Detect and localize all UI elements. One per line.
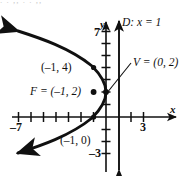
x-axis-label: x [170,104,176,115]
point-lower-dot [91,114,96,119]
vertex-dot [103,89,109,95]
x-tick-label-3: 3 [140,121,146,133]
point-upper-dot [91,65,96,70]
directrix-label: D: x = 1 [122,17,161,29]
y-tick-label-7: 7 [94,26,100,38]
point-upper-label: (–1, 4) [41,62,72,74]
focus-dot [91,89,97,95]
x-tick-label-neg7: –7 [10,121,22,133]
point-lower-label: (–1, 0) [60,135,91,147]
y-tick-label-neg3: –3 [89,147,101,159]
y-axis-label: y [100,19,105,30]
focus-label-text: F = (–1, 2) [30,85,81,97]
vertex-label-text: V = (0, 2) [133,56,178,68]
focus-label: F = (–1, 2) [30,86,81,98]
parabola-figure: . . ,, . . ,, [0,0,185,176]
directrix-label-text: D: x = 1 [122,16,161,28]
vertex-label: V = (0, 2) [133,57,178,69]
